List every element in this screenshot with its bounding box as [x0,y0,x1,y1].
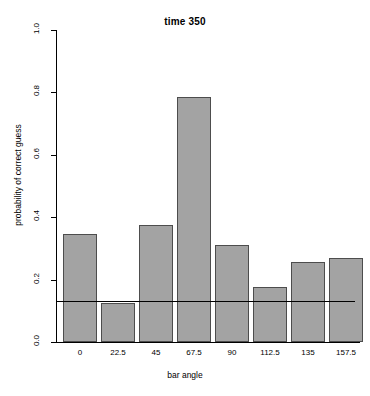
y-axis-tick [51,92,56,93]
y-axis-tick-label: 1.0 [32,17,41,41]
bar [253,287,287,342]
y-axis-tick [51,30,56,31]
x-axis-tick-label: 90 [228,348,237,357]
chart-figure: time 350 0.00.20.40.60.81.0 022.54567.59… [0,0,370,396]
bar [63,234,97,342]
x-axis-line [57,342,360,343]
x-axis-tick-label: 135 [301,348,314,357]
bar [177,97,211,342]
bar [139,225,173,342]
chance-level-line [57,301,355,302]
bar [291,262,325,342]
x-axis-tick-label: 45 [152,348,161,357]
bar [215,245,249,342]
bar [101,303,135,342]
y-axis-tick-label: 0.0 [32,329,41,353]
x-axis-tick-label: 0 [78,348,82,357]
y-axis-tick-label: 0.8 [32,79,41,103]
y-axis-tick-label: 0.6 [32,141,41,165]
x-axis-tick-label: 157.5 [336,348,356,357]
x-axis-tick-label: 67.5 [186,348,202,357]
plot-area [57,30,360,342]
chart-title: time 350 [0,16,370,27]
y-axis-tick [51,342,56,343]
y-axis-tick [51,280,56,281]
x-axis-tick-label: 22.5 [110,348,126,357]
y-axis-tick-label: 0.4 [32,204,41,228]
y-axis-title: probability of correct guess [13,105,23,245]
x-axis-title: bar angle [0,370,370,380]
y-axis-tick [51,217,56,218]
x-axis-tick-label: 112.5 [260,348,279,357]
y-axis-tick [51,155,56,156]
y-axis-tick-label: 0.2 [32,266,41,290]
